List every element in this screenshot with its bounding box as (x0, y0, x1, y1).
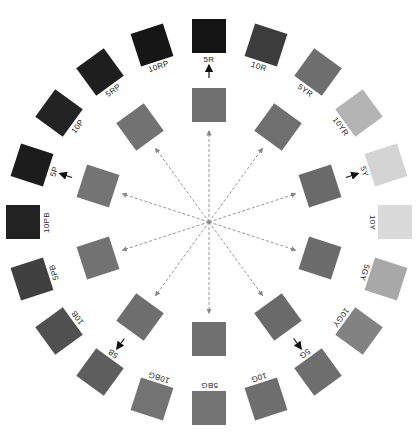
hue-label: 10PB (41, 212, 50, 233)
outward-arrow-icon (117, 338, 125, 349)
outer-color-chip-5r (192, 19, 226, 53)
outer-color-chip-10pb (6, 205, 40, 239)
outward-arrow-icon (60, 173, 72, 177)
outward-arrow-icon (346, 173, 358, 177)
outward-arrow-icon (294, 338, 302, 349)
hue-label: 5R (204, 55, 215, 64)
inner-color-chip (192, 88, 226, 122)
outer-color-chip-5bg (192, 391, 226, 425)
hue-circle-diagram: 5R10R5YR10YR5Y10Y5GY10GY5G10G5BG10BG5B10… (0, 0, 418, 432)
hue-label: 10Y (368, 214, 377, 229)
inner-color-chip (192, 322, 226, 356)
dashed-radial-arrows (0, 0, 418, 432)
hue-label: 5BG (201, 381, 218, 390)
outer-color-chip-10y (378, 205, 412, 239)
